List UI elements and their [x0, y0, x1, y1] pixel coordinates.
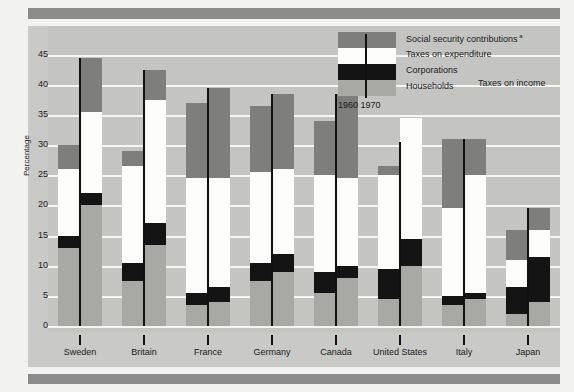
y-axis-ticks: 051015202530354045	[28, 26, 48, 332]
legend-swatch-social-security	[338, 32, 396, 48]
segment-households	[464, 299, 486, 326]
segment-households	[186, 305, 208, 326]
segment-expenditure	[144, 100, 166, 224]
y-tick-label: 5	[30, 291, 48, 300]
legend-year-1960: 1960	[338, 100, 361, 110]
segment-corporations	[506, 287, 528, 314]
year-divider	[527, 208, 529, 326]
year-divider	[399, 142, 401, 326]
legend-year-labels: 1960 1970	[338, 100, 381, 110]
stacked-bar	[58, 145, 80, 326]
segment-households	[314, 293, 336, 326]
segment-households	[272, 272, 294, 326]
segment-corporations	[442, 296, 464, 305]
segment-social-security	[272, 94, 294, 169]
segment-corporations	[122, 263, 144, 281]
segment-expenditure	[314, 175, 336, 272]
segment-social-security	[314, 121, 336, 175]
segment-expenditure	[336, 178, 358, 265]
segment-corporations	[400, 239, 422, 266]
legend-year-divider	[365, 34, 367, 98]
y-tick-label: 35	[30, 110, 48, 119]
segment-households	[528, 302, 550, 326]
segment-corporations	[186, 293, 208, 305]
plot-area	[48, 26, 560, 332]
legend-swatch-corporations	[338, 64, 396, 80]
segment-households	[336, 278, 358, 326]
year-divider	[207, 88, 209, 326]
x-tick	[335, 335, 337, 345]
stacked-bar	[378, 166, 400, 326]
segment-expenditure	[80, 112, 102, 193]
segment-households	[122, 281, 144, 326]
segment-expenditure	[528, 230, 550, 257]
segment-households	[250, 281, 272, 326]
x-tick	[527, 335, 529, 345]
stacked-bar	[208, 88, 230, 326]
y-tick-label: 0	[30, 321, 48, 330]
year-divider	[143, 70, 145, 326]
segment-expenditure	[464, 175, 486, 293]
segment-corporations	[336, 266, 358, 278]
segment-households	[80, 205, 102, 326]
legend-swatches	[338, 32, 396, 96]
stacked-bar	[314, 121, 336, 326]
segment-corporations	[58, 236, 80, 248]
gridline	[48, 115, 560, 117]
y-tick-label: 25	[30, 170, 48, 179]
segment-households	[144, 245, 166, 326]
stacked-bar	[506, 230, 528, 327]
segment-households	[58, 248, 80, 326]
segment-social-security	[250, 106, 272, 172]
x-tick	[143, 335, 145, 345]
segment-expenditure	[186, 178, 208, 293]
bottom-rule	[28, 374, 560, 384]
stacked-bar	[80, 58, 102, 326]
y-tick-label: 45	[30, 50, 48, 59]
year-divider	[79, 58, 81, 326]
y-tick-label: 30	[30, 140, 48, 149]
segment-expenditure	[250, 172, 272, 262]
stacked-bar	[464, 139, 486, 326]
legend-taxes-on-income-label: Taxes on income	[478, 78, 546, 88]
legend-swatch-expenditure	[338, 48, 396, 64]
x-axis-band: SwedenBritainFranceGermanyCanadaUnited S…	[48, 335, 560, 367]
x-tick	[207, 335, 209, 345]
segment-corporations	[144, 223, 166, 244]
segment-social-security	[506, 230, 528, 260]
x-tick	[79, 335, 81, 345]
segment-corporations	[250, 263, 272, 281]
legend-label-households: Households	[406, 81, 454, 91]
segment-expenditure	[272, 169, 294, 253]
y-tick-label: 40	[30, 80, 48, 89]
stacked-bar	[250, 106, 272, 326]
segment-expenditure	[506, 260, 528, 287]
segment-corporations	[208, 287, 230, 302]
segment-corporations	[528, 257, 550, 302]
x-axis-label-japan: Japan	[496, 347, 560, 357]
x-axis-label-germany: Germany	[240, 347, 304, 357]
year-divider	[335, 94, 337, 326]
segment-social-security	[144, 70, 166, 100]
segment-households	[208, 302, 230, 326]
segment-social-security	[528, 208, 550, 229]
segment-expenditure	[442, 208, 464, 295]
segment-expenditure	[58, 169, 80, 235]
stacked-bar	[400, 142, 422, 326]
x-tick	[463, 335, 465, 345]
legend-label-expenditure: Taxes on expenditure	[406, 49, 492, 59]
segment-social-security	[58, 145, 80, 169]
stacked-bar	[442, 139, 464, 326]
segment-social-security	[80, 58, 102, 112]
segment-social-security	[208, 88, 230, 178]
x-tick	[399, 335, 401, 345]
stacked-bar	[272, 94, 294, 326]
segment-households	[378, 299, 400, 326]
stacked-bar	[122, 151, 144, 326]
stacked-bar	[336, 94, 358, 326]
stacked-bar	[528, 208, 550, 326]
segment-social-security	[378, 166, 400, 175]
segment-expenditure	[208, 178, 230, 287]
x-axis-label-sweden: Sweden	[48, 347, 112, 357]
segment-households	[400, 266, 422, 326]
